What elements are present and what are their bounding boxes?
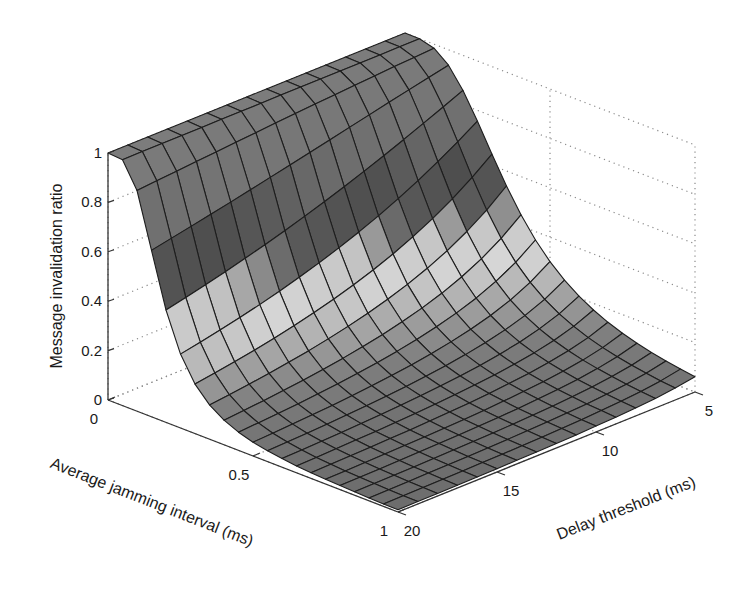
y-tick-label: 10 <box>602 442 619 459</box>
z-tick-label: 0.4 <box>81 292 102 309</box>
surface-mesh <box>108 33 695 510</box>
z-tick-label: 1 <box>94 144 102 161</box>
y-tick-label: 15 <box>503 482 520 499</box>
z-tick-label: 0.6 <box>81 243 102 260</box>
z-tick <box>108 349 114 351</box>
y-tick-label: 20 <box>404 522 421 539</box>
x-axis-label: Average jamming interval (ms) <box>48 454 256 549</box>
z-tick <box>108 200 114 202</box>
x-tick <box>253 453 260 456</box>
y-tick <box>695 392 703 395</box>
x-tick-label: 0.5 <box>229 466 250 483</box>
x-tick-label: 1 <box>380 522 388 539</box>
z-tick-label: 0.2 <box>81 342 102 359</box>
y-tick <box>596 432 604 435</box>
y-tick <box>398 512 406 515</box>
x-tick-label: 0 <box>90 410 98 427</box>
z-tick-label: 0 <box>94 391 102 408</box>
surface-chart: 00.20.40.60.8100.515101520 Message inval… <box>0 0 752 594</box>
y-tick <box>497 472 505 475</box>
z-axis-label: Message invalidation ratio <box>48 183 65 368</box>
y-tick-label: 5 <box>705 402 713 419</box>
y-axis-label: Delay threshold (ms) <box>554 473 698 543</box>
z-tick <box>108 250 114 252</box>
z-tick-label: 0.8 <box>81 193 102 210</box>
z-tick <box>108 299 114 301</box>
